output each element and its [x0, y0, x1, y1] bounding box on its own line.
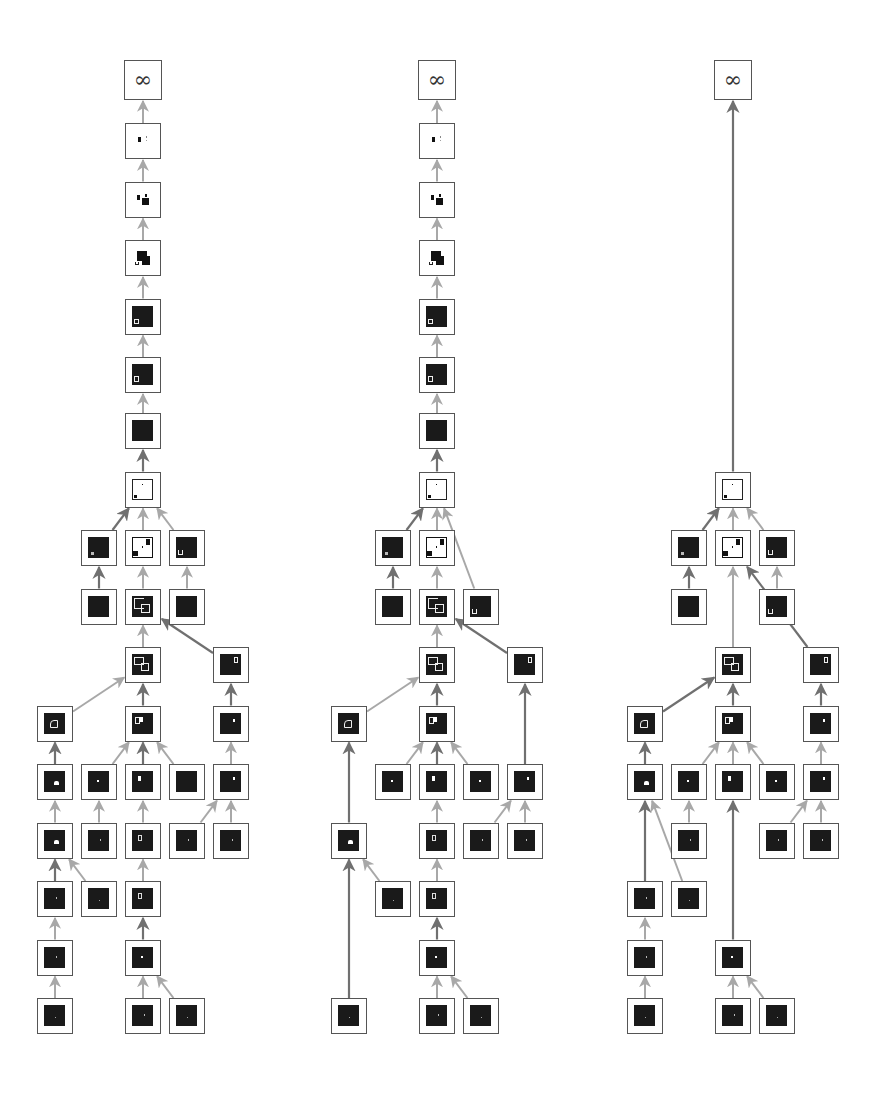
thumbnail-image	[44, 713, 65, 734]
tree-node-thumbnail	[507, 764, 543, 800]
tree-node-thumbnail	[419, 240, 455, 276]
infinity-label: ∞	[428, 69, 446, 91]
thumbnail-image	[44, 947, 65, 968]
edge-arrow	[157, 742, 173, 764]
tree-node-thumbnail	[715, 764, 751, 800]
tree-node-thumbnail	[125, 706, 161, 742]
thumbnail-image	[634, 771, 655, 792]
thumbnail-image	[176, 596, 197, 617]
tree-node-thumbnail	[419, 530, 455, 566]
thumbnail-image	[810, 771, 831, 792]
tree-node-thumbnail	[715, 647, 751, 683]
thumbnail-image	[88, 771, 109, 792]
tree-node-thumbnail	[627, 998, 663, 1034]
thumbnail-image	[426, 479, 447, 500]
edge-arrow	[157, 508, 173, 530]
thumbnail-image	[810, 830, 831, 851]
tree-node-thumbnail	[375, 530, 411, 566]
tree-node-thumbnail	[759, 823, 795, 859]
thumbnail-image	[88, 888, 109, 909]
tree-node-thumbnail	[419, 823, 455, 859]
thumbnail-image	[132, 771, 153, 792]
tree-node-thumbnail	[331, 998, 367, 1034]
tree-node-thumbnail	[463, 998, 499, 1034]
tree-node-thumbnail	[419, 413, 455, 449]
edge-arrow	[791, 801, 807, 823]
thumbnail-image	[220, 654, 241, 675]
thumbnail-image	[634, 888, 655, 909]
edge-arrow	[407, 508, 423, 530]
thumbnail-image	[132, 537, 153, 558]
tree-node-thumbnail	[375, 589, 411, 625]
tree-node-thumbnail	[759, 589, 795, 625]
tree-node-thumbnail	[81, 530, 117, 566]
edge-arrow	[703, 742, 719, 764]
thumbnail-image	[88, 596, 109, 617]
tree-node-thumbnail	[507, 647, 543, 683]
tree-node-thumbnail	[37, 998, 73, 1034]
tree-node-thumbnail	[419, 299, 455, 335]
thumbnail-image	[88, 537, 109, 558]
thumbnail-image	[220, 830, 241, 851]
thumbnail-image	[132, 247, 153, 268]
tree-node-thumbnail	[419, 357, 455, 393]
thumbnail-image	[382, 537, 403, 558]
thumbnail-image	[338, 1005, 359, 1026]
tree-node-thumbnail	[37, 940, 73, 976]
edge-arrow	[703, 508, 719, 530]
thumbnail-image	[176, 830, 197, 851]
thumbnail-image	[220, 771, 241, 792]
tree-node-thumbnail	[125, 998, 161, 1034]
tree-node-thumbnail	[671, 530, 707, 566]
root-node-infinity: ∞	[124, 60, 162, 100]
thumbnail-image	[426, 420, 447, 441]
tree-node-thumbnail	[125, 240, 161, 276]
thumbnail-image	[44, 830, 65, 851]
tree-node-thumbnail	[803, 823, 839, 859]
thumbnail-image	[722, 537, 743, 558]
tree-node-thumbnail	[125, 823, 161, 859]
tree-node-thumbnail	[375, 881, 411, 917]
thumbnail-image	[722, 947, 743, 968]
tree-node-thumbnail	[125, 647, 161, 683]
tree-node-thumbnail	[463, 764, 499, 800]
thumbnail-image	[176, 1005, 197, 1026]
tree-node-thumbnail	[125, 182, 161, 218]
thumbnail-image	[426, 189, 447, 210]
tree-node-thumbnail	[627, 706, 663, 742]
thumbnail-image	[44, 888, 65, 909]
thumbnail-image	[132, 130, 153, 151]
tree-node-thumbnail	[715, 706, 751, 742]
thumbnail-image	[634, 1005, 655, 1026]
thumbnail-image	[132, 596, 153, 617]
thumbnail-image	[810, 654, 831, 675]
edge-arrow	[451, 742, 467, 764]
thumbnail-image	[44, 1005, 65, 1026]
thumbnail-image	[382, 771, 403, 792]
thumbnail-image	[132, 306, 153, 327]
tree-node-thumbnail	[803, 764, 839, 800]
tree-node-thumbnail	[81, 589, 117, 625]
thumbnail-image	[426, 364, 447, 385]
tree-node-thumbnail	[37, 881, 73, 917]
thumbnail-image	[132, 1005, 153, 1026]
thumbnail-image	[514, 771, 535, 792]
thumbnail-image	[132, 654, 153, 675]
thumbnail-image	[426, 1005, 447, 1026]
edge-arrow	[495, 801, 511, 823]
tree-node-thumbnail	[169, 589, 205, 625]
tree-node-thumbnail	[759, 998, 795, 1034]
thumbnail-image	[514, 654, 535, 675]
tree-node-thumbnail	[125, 299, 161, 335]
edge-arrow	[113, 508, 129, 530]
tree-node-thumbnail	[419, 647, 455, 683]
thumbnail-image	[132, 888, 153, 909]
thumbnail-image	[766, 537, 787, 558]
tree-node-thumbnail	[169, 764, 205, 800]
tree-node-thumbnail	[419, 881, 455, 917]
edge-arrow	[663, 678, 714, 712]
tree-node-thumbnail	[331, 706, 367, 742]
tree-node-thumbnail	[125, 940, 161, 976]
tree-node-thumbnail	[627, 764, 663, 800]
thumbnail-image	[382, 596, 403, 617]
